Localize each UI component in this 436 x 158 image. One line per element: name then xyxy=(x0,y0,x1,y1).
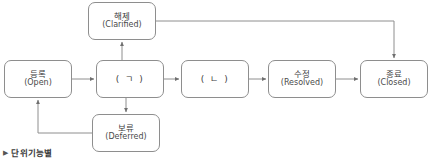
state-flow-diagram: 해제 (Clarified) 등록 (Open) ( ㄱ ) ( ㄴ ) 수정 … xyxy=(0,0,436,158)
node-jamo-giyeok[interactable]: ( ㄱ ) xyxy=(96,60,164,98)
node-clarified-label-en: (Clarified) xyxy=(102,21,142,30)
node-jamo-nieun-label: ( ㄴ ) xyxy=(201,74,230,84)
diagram-caption: ▶단위기능별 xyxy=(3,146,52,158)
node-open[interactable]: 등록 (Open) xyxy=(4,60,72,98)
edge-clarified-to-closed xyxy=(156,21,394,58)
caption-text: 단위기능별 xyxy=(11,148,52,158)
node-deferred[interactable]: 보류 (Deferred) xyxy=(92,114,160,152)
node-resolved-label-en: (Resolved) xyxy=(281,79,323,88)
node-open-label-en: (Open) xyxy=(24,79,52,88)
edge-deferred-to-open xyxy=(38,100,92,133)
node-deferred-label-en: (Deferred) xyxy=(105,133,146,142)
node-jamo-nieun[interactable]: ( ㄴ ) xyxy=(181,60,249,98)
node-closed-label-en: (Closed) xyxy=(377,79,410,88)
node-resolved[interactable]: 수정 (Resolved) xyxy=(268,60,336,98)
node-closed[interactable]: 종료 (Closed) xyxy=(360,60,428,98)
node-jamo-giyeok-label: ( ㄱ ) xyxy=(116,74,145,84)
caption-marker-icon: ▶ xyxy=(3,149,8,157)
node-clarified[interactable]: 해제 (Clarified) xyxy=(88,2,156,40)
